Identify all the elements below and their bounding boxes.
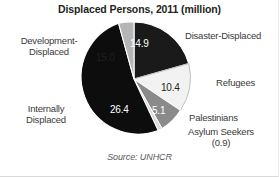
pie-label-development-displaced: Development- Displaced [8,35,90,57]
pie-label-palestinians: Palestinians [189,112,238,123]
pie-label-development-displaced-line1: Development- [21,35,78,46]
pie-value-palestinians: 5.1 [152,105,165,116]
pie-chart-graphic [0,0,279,177]
pie-label-asylum-seekers-line1: Asylum Seekers [188,126,254,137]
pie-label-internally-displaced: Internally Displaced [10,103,82,125]
pie-value-refugees: 10.4 [161,82,180,93]
pie-label-internally-displaced-line1: Internally [28,103,65,114]
pie-value-disaster-displaced: 14.9 [130,38,149,49]
pie-label-internally-displaced-line2: Displaced [26,114,66,125]
pie-label-disaster-displaced: Disaster-Displaced [185,30,261,41]
pie-label-asylum-seekers: Asylum Seekers (0.9) [168,126,274,148]
pie-label-refugees: Refugees [216,77,255,88]
pie-value-internally-displaced: 26.4 [110,104,129,115]
pie-chart-figure: Displaced Persons, 2011 (million) 14.9 1… [0,0,279,177]
pie-label-asylum-seekers-value: (0.9) [212,137,231,148]
pie-label-development-displaced-line2: Displaced [29,46,69,57]
pie-value-development-displaced: 15.0 [96,52,115,63]
source-note: Source: UNHCR [0,152,279,162]
